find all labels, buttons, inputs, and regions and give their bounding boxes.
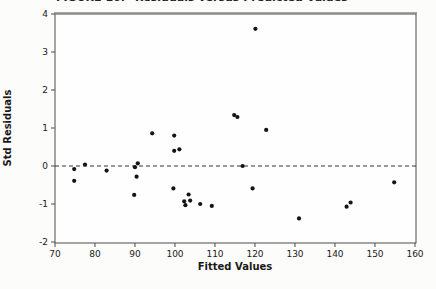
- x-tick-label: 130: [286, 249, 303, 259]
- data-point: [349, 200, 353, 204]
- data-point: [136, 161, 140, 165]
- x-tick-label: 140: [326, 249, 343, 259]
- data-point: [150, 131, 154, 135]
- y-tick-label: -2: [39, 237, 48, 247]
- data-point: [210, 204, 214, 208]
- x-axis-label: Fitted Values: [198, 261, 273, 272]
- x-tick-label: 150: [366, 249, 383, 259]
- data-point: [183, 203, 187, 207]
- data-point: [345, 205, 349, 209]
- figure-canvas: FIGURE 16.Residuals versus Predicted Val…: [0, 0, 436, 289]
- y-tick-label: 2: [42, 85, 48, 95]
- data-point: [171, 186, 175, 190]
- data-point: [83, 162, 87, 166]
- data-point: [187, 192, 191, 196]
- figure-title-line: FIGURE 16.Residuals versus Predicted Val…: [56, 0, 416, 4]
- figure-title: FIGURE 16.Residuals versus Predicted Val…: [56, 0, 416, 5]
- figure-title-text: Residuals versus Predicted Values: [135, 0, 348, 4]
- data-point: [253, 27, 257, 31]
- data-point: [72, 167, 76, 171]
- y-tick-label: 4: [42, 9, 48, 19]
- x-tick-label: 90: [129, 249, 141, 259]
- data-point: [297, 216, 301, 220]
- data-point: [135, 175, 139, 179]
- data-point: [133, 165, 137, 169]
- x-tick-label: 80: [89, 249, 101, 259]
- x-tick-label: 100: [166, 249, 183, 259]
- data-point: [105, 168, 109, 172]
- y-axis-label: Std Residuals: [2, 90, 13, 167]
- scatter-plot: 708090100110120130140150160-2-101234 Fit…: [0, 0, 436, 289]
- x-tick-label: 160: [406, 249, 423, 259]
- x-tick-label: 110: [206, 249, 223, 259]
- data-point: [198, 202, 202, 206]
- y-tick-label: 3: [42, 47, 48, 57]
- data-point: [132, 193, 136, 197]
- figure-number: FIGURE 16.: [56, 0, 125, 4]
- y-tick-label: -1: [39, 199, 48, 209]
- data-point: [72, 179, 76, 183]
- data-point: [182, 199, 186, 203]
- y-tick-label: 0: [42, 161, 48, 171]
- data-point: [251, 186, 255, 190]
- plot-frame: [55, 14, 416, 243]
- data-point: [177, 147, 181, 151]
- data-point: [188, 198, 192, 202]
- data-point: [172, 134, 176, 138]
- data-point: [241, 164, 245, 168]
- data-point: [392, 180, 396, 184]
- y-tick-label: 1: [42, 123, 48, 133]
- data-point: [235, 115, 239, 119]
- data-point: [264, 128, 268, 132]
- data-point: [172, 149, 176, 153]
- x-tick-label: 120: [246, 249, 263, 259]
- x-tick-label: 70: [49, 249, 61, 259]
